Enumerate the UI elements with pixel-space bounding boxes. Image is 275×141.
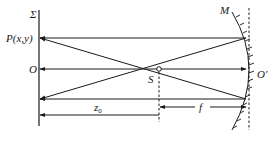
mirror-hatching: [233, 15, 254, 128]
optics-diagram: Σ P(x,y) O S z0 f: [0, 0, 275, 141]
source-point: [157, 67, 162, 72]
mirror-vertex-label: O′: [257, 68, 268, 80]
source-label: S: [148, 73, 154, 85]
mirror-label: M: [219, 4, 230, 16]
point-p-label: P(x,y): [5, 32, 33, 45]
sigma-label: Σ: [29, 8, 37, 20]
z0-label: z0: [93, 101, 102, 115]
origin-label: O: [29, 63, 37, 75]
focal-length-label: f: [199, 101, 204, 113]
